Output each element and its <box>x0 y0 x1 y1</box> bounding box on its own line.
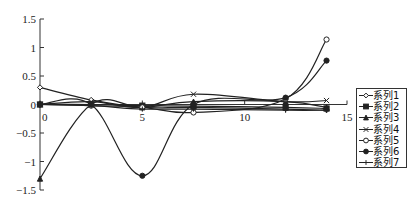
legend-item-series5: 系列5 <box>359 135 404 146</box>
diamond-marker-icon <box>359 91 373 100</box>
y-tick-label: −0.5 <box>16 127 36 139</box>
legend-label: 系列6 <box>373 146 399 157</box>
series-6 <box>37 58 329 178</box>
legend-label: 系列1 <box>373 90 399 101</box>
filled-circle-marker-icon <box>359 147 373 156</box>
y-tick-label: 1 <box>31 42 37 54</box>
legend-label: 系列7 <box>373 157 399 168</box>
legend-label: 系列5 <box>373 135 399 146</box>
x-tick-label: 15 <box>342 111 354 123</box>
chart-legend: 系列1 系列2 系列3 系列4 系列5 系列6 系列7 <box>356 88 407 168</box>
y-tick-label: 0 <box>31 99 37 111</box>
y-tick-label: −1.5 <box>16 184 36 196</box>
legend-item-series1: 系列1 <box>359 90 404 101</box>
x-tick-label: 0 <box>42 111 48 123</box>
legend-item-series7: 系列7 <box>359 157 404 168</box>
open-circle-marker-icon <box>359 136 373 145</box>
legend-item-series4: 系列4 <box>359 124 404 135</box>
x-tick-label: 5 <box>140 111 146 123</box>
y-tick-label: −1 <box>24 156 36 168</box>
legend-item-series2: 系列2 <box>359 101 404 112</box>
legend-item-series6: 系列6 <box>359 146 404 157</box>
x-tick-label: 10 <box>239 111 251 123</box>
legend-label: 系列3 <box>373 112 399 123</box>
legend-label: 系列2 <box>373 101 399 112</box>
line-chart: 1.510.50−0.5−1−1.5051015 <box>0 0 409 209</box>
y-tick-label: 0.5 <box>22 70 36 82</box>
legend-label: 系列4 <box>373 124 399 135</box>
y-tick-label: 1.5 <box>22 13 36 25</box>
legend-item-series3: 系列3 <box>359 112 404 123</box>
plus-marker-icon <box>359 158 373 167</box>
x-marker-icon <box>359 125 373 134</box>
square-marker-icon <box>359 102 373 111</box>
chart-series <box>37 37 329 181</box>
triangle-marker-icon <box>359 113 373 122</box>
